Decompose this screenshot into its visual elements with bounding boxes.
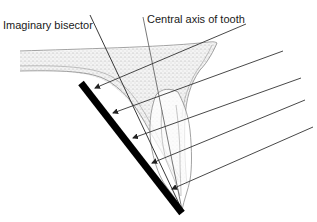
bisecting-angle-diagram [0,0,317,222]
xray-beam [172,127,313,189]
central-axis-label: Central axis of tooth [147,14,245,25]
bisector-label: Imaginary bisector [3,20,93,31]
